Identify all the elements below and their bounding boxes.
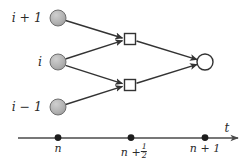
level-label-i-minus-1: i − 1 xyxy=(12,101,42,114)
time-axis xyxy=(18,134,238,141)
time-axis-label: t xyxy=(225,122,230,134)
tick-label-n-plus-half: n +12 xyxy=(121,143,147,160)
figure-canvas: i + 1 i i − 1 n n +12 n + 1 t xyxy=(0,0,246,165)
edge-upper-square-to-right xyxy=(137,41,198,60)
level-label-i: i xyxy=(38,56,42,69)
edge-mid-to-upper-square xyxy=(65,41,122,59)
edge-mid-to-lower-square xyxy=(65,65,122,83)
tick-label-n: n xyxy=(54,143,61,154)
node-half-upper xyxy=(125,34,136,45)
node-i-n-plus-1 xyxy=(197,54,213,70)
diagram-svg xyxy=(0,0,246,165)
node-i-plus-1-n xyxy=(50,10,66,26)
fraction-denominator: 2 xyxy=(141,152,147,160)
edge-lower-square-to-right xyxy=(137,64,198,83)
edge-top-to-upper-square xyxy=(66,21,123,39)
edge-bottom-to-lower-square xyxy=(66,86,123,104)
tick-dot-n xyxy=(55,134,62,141)
node-group xyxy=(50,10,213,115)
fraction-one-half: 12 xyxy=(141,143,147,160)
tick-label-n-plus-1: n + 1 xyxy=(190,143,220,154)
tick-dot-n-plus-half xyxy=(128,134,135,141)
node-half-lower xyxy=(125,80,136,91)
level-label-i-plus-1: i + 1 xyxy=(12,12,42,25)
tick-dot-n-plus-1 xyxy=(202,134,209,141)
tick-label-n-plus-half-text: n + xyxy=(121,146,141,159)
node-i-minus-1-n xyxy=(50,99,66,115)
node-i-n xyxy=(50,54,66,70)
